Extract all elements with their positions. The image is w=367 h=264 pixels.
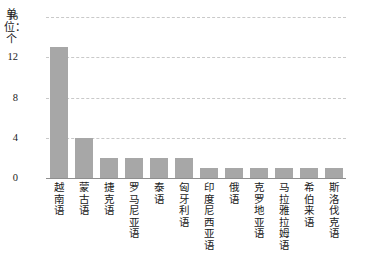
y-tick-label: 4: [0, 133, 18, 143]
y-tick-label: 12: [0, 52, 18, 62]
x-axis-baseline: [46, 178, 346, 179]
x-axis-label: 蒙古语: [77, 182, 90, 217]
x-axis-label: 越南语: [52, 182, 65, 217]
x-axis-label: 俄语: [227, 182, 240, 205]
x-axis-label: 印度尼西亚语: [202, 182, 215, 252]
bar: [50, 47, 68, 178]
x-axis-label: 泰语: [152, 182, 165, 205]
bar: [225, 168, 243, 178]
bar: [125, 158, 143, 178]
bar: [75, 138, 93, 178]
bar: [275, 168, 293, 178]
y-tick-label: 16: [0, 12, 18, 22]
bar: [150, 158, 168, 178]
x-axis-label: 马拉雅拉姆语: [277, 182, 290, 252]
x-axis-label: 匈牙利语: [177, 182, 190, 228]
bar-chart: 单位：个 0481216 越南语蒙古语捷克语罗马尼亚语泰语匈牙利语印度尼西亚语俄…: [0, 0, 367, 264]
x-axis-label: 罗马尼亚语: [127, 182, 140, 240]
bar: [175, 158, 193, 178]
bar: [325, 168, 343, 178]
x-axis-label: 希伯来语: [302, 182, 315, 228]
x-axis-labels: 越南语蒙古语捷克语罗马尼亚语泰语匈牙利语印度尼西亚语俄语克罗地亚语马拉雅拉姆语希…: [46, 182, 346, 262]
bar: [100, 158, 118, 178]
y-tick-label: 0: [0, 173, 18, 183]
bar: [200, 168, 218, 178]
bar-series: [46, 17, 346, 178]
bar: [300, 168, 318, 178]
x-axis-label: 捷克语: [102, 182, 115, 217]
y-tick-label: 8: [0, 93, 18, 103]
x-axis-label: 斯洛伐克语: [327, 182, 340, 240]
x-axis-label: 克罗地亚语: [252, 182, 265, 240]
bar: [250, 168, 268, 178]
